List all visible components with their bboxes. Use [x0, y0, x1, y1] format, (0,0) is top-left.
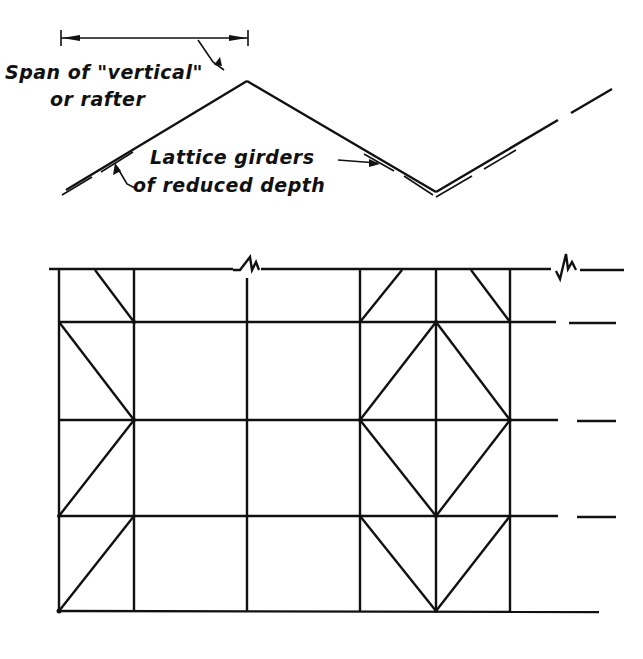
roof-lattice-diagram: Span of "vertical" or rafter Lattice gir…: [0, 0, 643, 659]
lattice-grid: [49, 254, 624, 614]
break-symbol-icon: [233, 257, 259, 270]
lattice-label-line2: of reduced depth: [133, 174, 325, 196]
break-symbol-icon: [556, 254, 576, 279]
span-label-line2: or rafter: [50, 88, 146, 110]
lattice-label-line1: Lattice girders: [150, 146, 315, 168]
leader-arrow-icon: [214, 57, 222, 66]
arrow-right-icon: [229, 35, 247, 41]
arrow-left-icon: [62, 35, 80, 41]
span-label-line1: Span of "vertical": [5, 61, 203, 83]
